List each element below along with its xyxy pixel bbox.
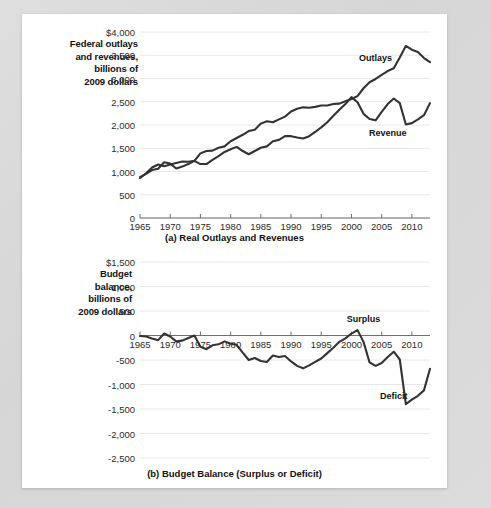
x-tick-label-1980: 1980	[220, 221, 241, 232]
x-tick-label-1995: 1995	[311, 339, 332, 350]
y-tick-label-1000: 1,000	[111, 281, 140, 292]
x-tick-label-1970: 1970	[160, 221, 181, 232]
x-tick-label-1995: 1995	[311, 221, 332, 232]
y-tick-label-1500: $1,500	[106, 257, 140, 268]
y-tick-label-500: 500	[119, 189, 140, 200]
annotation-surplus: Surplus	[347, 314, 381, 324]
y-tick-label-4000: $4,000	[106, 27, 140, 38]
x-tick-label-1965: 1965	[129, 339, 150, 350]
panel-b-plot-area: $1,5001,0005000-500-1,000-1,500-2,000-2,…	[140, 262, 430, 458]
y-tick-label--1000: -1,000	[108, 379, 140, 390]
x-tick-label-2000: 2000	[341, 221, 362, 232]
annotation-deficit: Deficit	[380, 391, 408, 401]
panel-a-caption: (a) Real Outlays and Revenues	[22, 232, 447, 243]
y-tick-label-3500: 3,500	[111, 50, 140, 61]
x-tick-label-2010: 2010	[401, 221, 422, 232]
series-line-outlays	[140, 46, 430, 178]
panel-b-caption: (b) Budget Balance (Surplus or Deficit)	[22, 468, 447, 479]
y-tick-label-2500: 2,500	[111, 96, 140, 107]
x-tick-label-1985: 1985	[250, 221, 271, 232]
y-tick-label-1000: 1,000	[111, 166, 140, 177]
annotation-revenue: Revenue	[369, 128, 407, 138]
x-tick-label-1985: 1985	[250, 339, 271, 350]
x-tick-label-2010: 2010	[401, 339, 422, 350]
x-tick-label-1975: 1975	[190, 339, 211, 350]
y-tick-label--2000: -2,000	[108, 428, 140, 439]
y-tick-label-2000: 2,000	[111, 120, 140, 131]
x-tick-label-1990: 1990	[280, 339, 301, 350]
budget-balance-svg	[140, 262, 430, 458]
x-tick-label-2005: 2005	[371, 339, 392, 350]
annotation-outlays: Outlays	[359, 53, 392, 63]
y-tick-label--2500: -2,500	[108, 453, 140, 464]
y-tick-label--500: -500	[116, 355, 140, 366]
x-tick-label-1965: 1965	[129, 221, 150, 232]
panel-b-axis-title-line-2: billions of	[30, 293, 132, 306]
panel-real-outlays-and-revenues: Federal outlaysand revenues,billions of2…	[22, 24, 447, 249]
y-tick-label-1500: 1,500	[111, 143, 140, 154]
x-tick-label-2000: 2000	[341, 339, 362, 350]
x-tick-label-1970: 1970	[160, 339, 181, 350]
x-tick-label-1990: 1990	[280, 221, 301, 232]
panel-a-plot-area: 05001,0001,5002,0002,5003,0003,500$4,000…	[140, 32, 430, 218]
y-tick-label-3000: 3,000	[111, 73, 140, 84]
y-tick-label--1500: -1,500	[108, 404, 140, 415]
y-tick-label-500: 500	[119, 306, 140, 317]
panel-b-axis-title-line-0: Budget	[30, 268, 132, 281]
figure-card: Federal outlaysand revenues,billions of2…	[22, 14, 447, 488]
panel-a-axis-title-line-0: Federal outlays	[30, 38, 138, 51]
x-tick-label-2005: 2005	[371, 221, 392, 232]
x-tick-label-1975: 1975	[190, 221, 211, 232]
panel-b-axis-title: Budgetbalance,billions of2009 dollars	[30, 268, 132, 318]
panel-budget-balance: Budgetbalance,billions of2009 dollars $1…	[22, 254, 447, 488]
panel-b-axis-title-line-3: 2009 dollars	[30, 306, 132, 319]
x-tick-label-1980: 1980	[220, 339, 241, 350]
